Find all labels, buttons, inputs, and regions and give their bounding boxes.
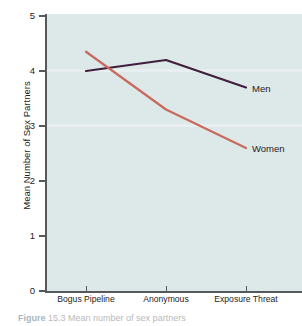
caption-number: 15.3 — [48, 313, 66, 323]
chart-figure: 5 4 3 2 1 0 Mean Number of Sex Partners … — [0, 0, 302, 326]
series-line-women — [86, 52, 246, 148]
series-label-women: Women — [252, 144, 285, 154]
series-line-men — [86, 60, 246, 88]
caption-text: Mean number of sex partners — [68, 313, 186, 323]
figure-caption: Figure 15.3 Mean number of sex partners — [18, 313, 302, 323]
caption-lead: Figure — [18, 313, 46, 323]
series-label-men: Men — [252, 84, 270, 94]
data-lines — [0, 0, 302, 326]
